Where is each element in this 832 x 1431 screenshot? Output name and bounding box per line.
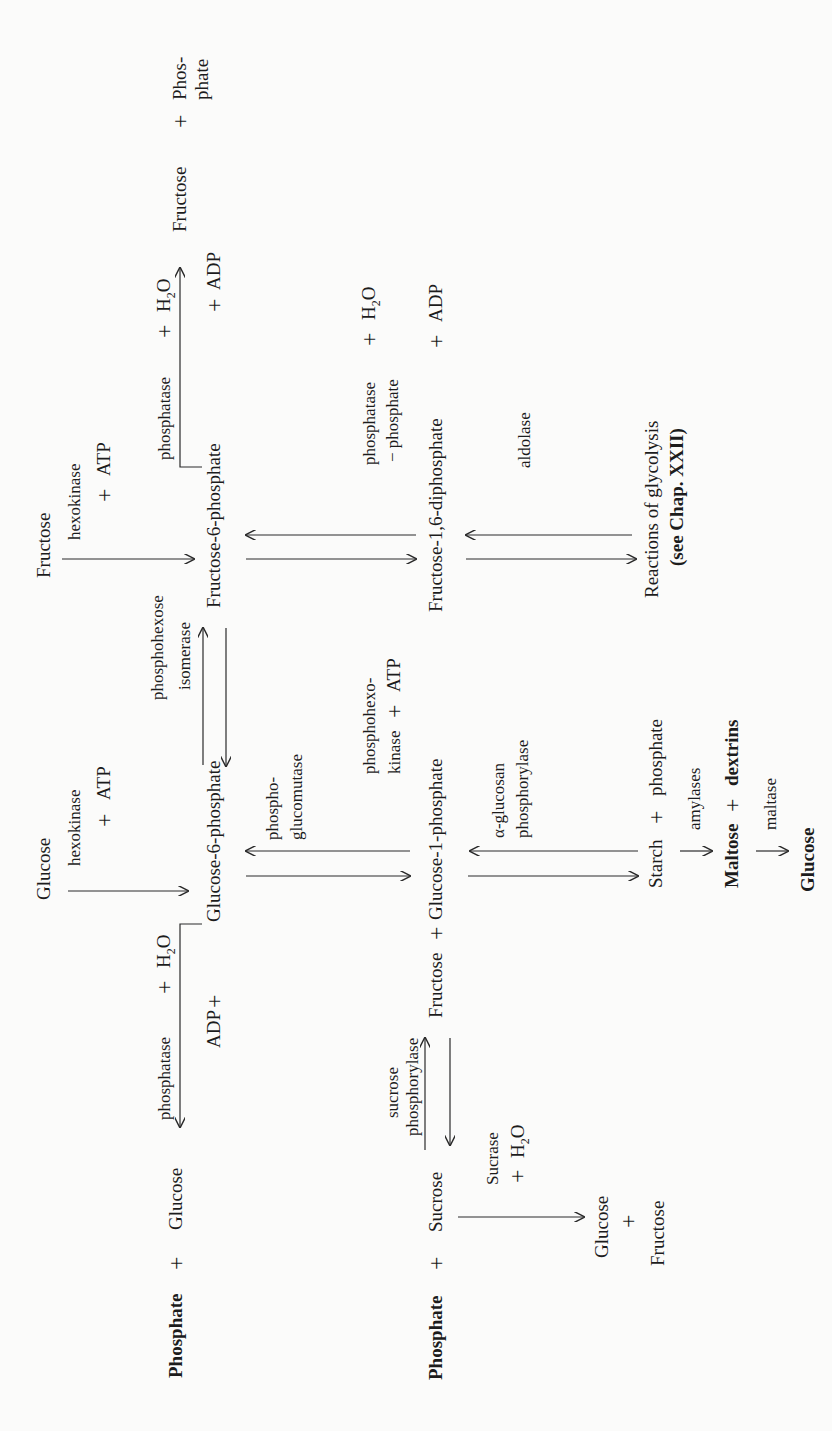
glucose-1-phosphate-node: Glucose-1-phosphate bbox=[425, 759, 446, 920]
adp-label: ADP bbox=[203, 1010, 224, 1048]
aldolase-label: aldolase bbox=[515, 412, 534, 468]
plus-sign: + bbox=[151, 980, 177, 994]
plus-sign: + bbox=[615, 1214, 641, 1228]
maltase-label: maltase bbox=[761, 778, 780, 830]
plus-sign: + bbox=[423, 926, 449, 940]
glucomutase-label: glucomutase bbox=[287, 754, 306, 840]
fructose-phosphate-product: Fructose + Phos- phate bbox=[167, 57, 212, 232]
arrow-down-icon bbox=[180, 924, 202, 1127]
plus-sign: + bbox=[423, 334, 449, 348]
phosphatase-label: phosphatase bbox=[155, 377, 174, 460]
glucose-label: Glucose bbox=[165, 1168, 186, 1230]
atp-label: ATP bbox=[383, 658, 404, 692]
phosphorylase-label: phosphorylase bbox=[403, 1038, 422, 1136]
fructose-6-phosphate-node: Fructose-6-phosphate bbox=[203, 443, 224, 608]
sucrose-node: Sucrose bbox=[425, 1172, 446, 1232]
atp-label: ATP bbox=[93, 442, 114, 476]
fructose-substrate: Fructose bbox=[33, 513, 54, 578]
sucrose-label: sucrose bbox=[383, 1067, 402, 1118]
arrow-up-icon bbox=[180, 268, 202, 467]
pathway-diagram: Fructose + Phos- phate phosphatase + H2O… bbox=[0, 0, 832, 1431]
plus-sign: + bbox=[504, 1169, 530, 1183]
plus-sign: + bbox=[381, 704, 407, 718]
glucose-6-phosphate-node: Glucose-6-phosphate bbox=[203, 761, 224, 922]
plus-sign: + bbox=[643, 810, 669, 824]
fructose-label: Fructose bbox=[425, 953, 446, 1018]
phosphatase-label: phosphatase bbox=[155, 1037, 174, 1120]
fructose-hexokinase-reaction: Fructose hexokinase + ATP bbox=[33, 442, 194, 578]
plus-sign: + bbox=[167, 114, 193, 128]
plus-sign: + bbox=[356, 332, 382, 346]
hexokinase-label: hexokinase bbox=[65, 790, 84, 866]
phosphohexose-isomerase-reaction: phosphohexose isomerase bbox=[148, 595, 226, 766]
hexokinase-label: hexokinase bbox=[65, 464, 84, 540]
alpha-glucosan-label: α-glucosan bbox=[489, 763, 508, 838]
water-label: H2O bbox=[153, 279, 178, 312]
phate-label: phate bbox=[191, 59, 212, 100]
plus-sign: + bbox=[201, 298, 227, 312]
plus-sign: + bbox=[91, 813, 117, 827]
fructose-label: Fructose bbox=[169, 167, 190, 232]
f6p-phosphatase-reaction: phosphatase + H2O bbox=[151, 268, 202, 467]
dextrins-label: dextrins bbox=[721, 720, 742, 787]
fdp-phosphatase-label: phosphatase + H2O − phosphate bbox=[356, 287, 402, 465]
fructose-label: Fructose bbox=[647, 1201, 668, 1266]
sucrose-phosphorylase-reaction: sucrose phosphorylase bbox=[383, 1038, 450, 1150]
phosphatase-label: phosphatase bbox=[360, 382, 379, 465]
phosphohexose-label: phosphohexose bbox=[148, 595, 167, 700]
phosphorylase-label: phosphorylase bbox=[513, 740, 532, 838]
atp-label: ATP bbox=[93, 766, 114, 800]
chapter-reference: (see Chap. XXII) bbox=[666, 428, 688, 566]
starch-label: Starch bbox=[645, 839, 666, 888]
phosphoglucomutase-label: phospho- bbox=[263, 776, 282, 840]
glucose-substrate: Glucose bbox=[33, 838, 54, 900]
water-label: H2O bbox=[358, 287, 383, 320]
glucose-label: Glucose bbox=[591, 1196, 612, 1258]
isomerase-label: isomerase bbox=[175, 622, 194, 690]
fructose-1-6-diphosphate-node: Fructose-1,6-diphosphate bbox=[425, 418, 446, 612]
kinase-label: kinase bbox=[385, 731, 404, 774]
phosphate-label: Phosphate bbox=[425, 1296, 446, 1380]
sucrase-reaction: Sucrase + H2O Glucose + Fructose bbox=[458, 1125, 668, 1266]
phosphate-label: phosphate bbox=[645, 719, 666, 796]
starch-degradation: Starch + phosphate amylases Maltose + de… bbox=[643, 719, 818, 892]
phos-label: Phos- bbox=[169, 57, 190, 100]
plus-sign: + bbox=[719, 798, 745, 812]
minus-phosphate-label: − phosphate bbox=[383, 379, 402, 462]
phosphate-label: Phosphate bbox=[165, 1294, 186, 1378]
plus-sign: + bbox=[151, 324, 177, 338]
glycolysis-label: Reactions of glycolysis bbox=[641, 421, 662, 598]
adp-label: ADP bbox=[203, 252, 224, 290]
g6p-phosphatase-reaction: phosphatase + H2O bbox=[151, 924, 202, 1127]
water-label: H2O bbox=[507, 1125, 532, 1158]
glucose-hexokinase-reaction: Glucose hexokinase + ATP bbox=[33, 766, 188, 900]
sucrase-label: Sucrase bbox=[483, 1132, 502, 1185]
glucose-label: Glucose bbox=[797, 828, 818, 892]
plus-sign: + bbox=[201, 994, 227, 1008]
plus-sign: + bbox=[163, 1256, 189, 1270]
plus-sign: + bbox=[91, 488, 117, 502]
amylases-label: amylases bbox=[685, 768, 704, 830]
plus-sign: + bbox=[423, 1256, 449, 1270]
phosphohexokinase-label: phosphohexo- bbox=[360, 677, 379, 774]
water-label: H2O bbox=[153, 935, 178, 968]
adp-label: ADP bbox=[425, 284, 446, 322]
maltose-label: Maltose bbox=[721, 824, 742, 888]
